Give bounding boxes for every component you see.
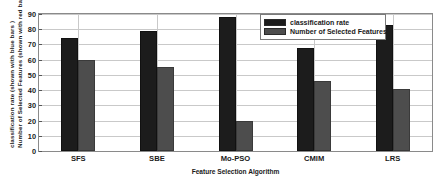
chart-legend: classification rate Number of Selected F… (260, 14, 386, 40)
x-axis-tick-label-mo-pso: Mo-PSO (221, 154, 251, 163)
y-axis-label-line-1: classification rate (shown with blue bar… (8, 21, 15, 148)
y-axis-label: classification rate (shown with blue bar… (0, 0, 26, 150)
y-axis-tick-mark (39, 44, 42, 45)
bar-classification-rate-mo-pso (219, 17, 236, 151)
y-axis-tick-label: 50 (28, 70, 36, 79)
x-axis-tick-label-sfs: SFS (71, 154, 86, 163)
x-axis-tick-label-sbe: SBE (149, 154, 165, 163)
y-axis-tick-label: 40 (28, 86, 36, 95)
bar-group-sfs (61, 14, 95, 151)
y-axis-tick-mark (39, 90, 42, 91)
legend-item-classification-rate: classification rate (264, 18, 382, 27)
bar-classification-rate-cmim (297, 48, 314, 152)
y-axis-tick-mark (39, 75, 42, 76)
bar-selected-features-sfs (78, 60, 95, 151)
y-axis-label-line-2: Number of Selected Features (shown with … (16, 0, 23, 148)
y-axis-tick-label: 90 (28, 10, 36, 19)
legend-label-selected-features: Number of Selected Features (290, 27, 387, 36)
x-axis-tick-label-cmim: CMIM (304, 154, 324, 163)
legend-swatch-classification-rate (264, 19, 286, 26)
x-axis-label: Feature Selection Algorithm (38, 168, 433, 175)
bar-chart-figure: classification rate (shown with blue bar… (0, 0, 445, 185)
y-axis-tick-label: 0 (32, 147, 36, 156)
y-axis-tick-mark (39, 29, 42, 30)
y-axis-tick-mark (39, 151, 42, 152)
y-axis-tick-label: 80 (28, 25, 36, 34)
legend-swatch-selected-features (264, 28, 286, 35)
y-axis-tick-mark (39, 105, 42, 106)
bar-selected-features-cmim (314, 81, 331, 151)
bar-classification-rate-sfs (61, 38, 78, 151)
y-axis-tick-label: 20 (28, 116, 36, 125)
bar-selected-features-mo-pso (236, 121, 253, 151)
bar-group-sbe (140, 14, 174, 151)
y-axis-tick-label: 30 (28, 101, 36, 110)
y-axis-tick-mark (39, 121, 42, 122)
legend-label-classification-rate: classification rate (290, 18, 349, 27)
y-axis-tick-label: 70 (28, 40, 36, 49)
y-axis-tick-mark (39, 136, 42, 137)
bar-group-mo-pso (219, 14, 253, 151)
y-axis-tick-label: 10 (28, 131, 36, 140)
bar-selected-features-sbe (157, 67, 174, 151)
y-axis-tick-mark (39, 60, 42, 61)
bar-classification-rate-sbe (140, 31, 157, 151)
bar-selected-features-lrs (393, 89, 410, 151)
x-axis-tick-label-lrs: LRS (385, 154, 400, 163)
y-axis-tick-label: 60 (28, 55, 36, 64)
legend-item-selected-features: Number of Selected Features (264, 27, 382, 36)
bar-classification-rate-lrs (376, 25, 393, 151)
y-axis-tick-mark (39, 14, 42, 15)
